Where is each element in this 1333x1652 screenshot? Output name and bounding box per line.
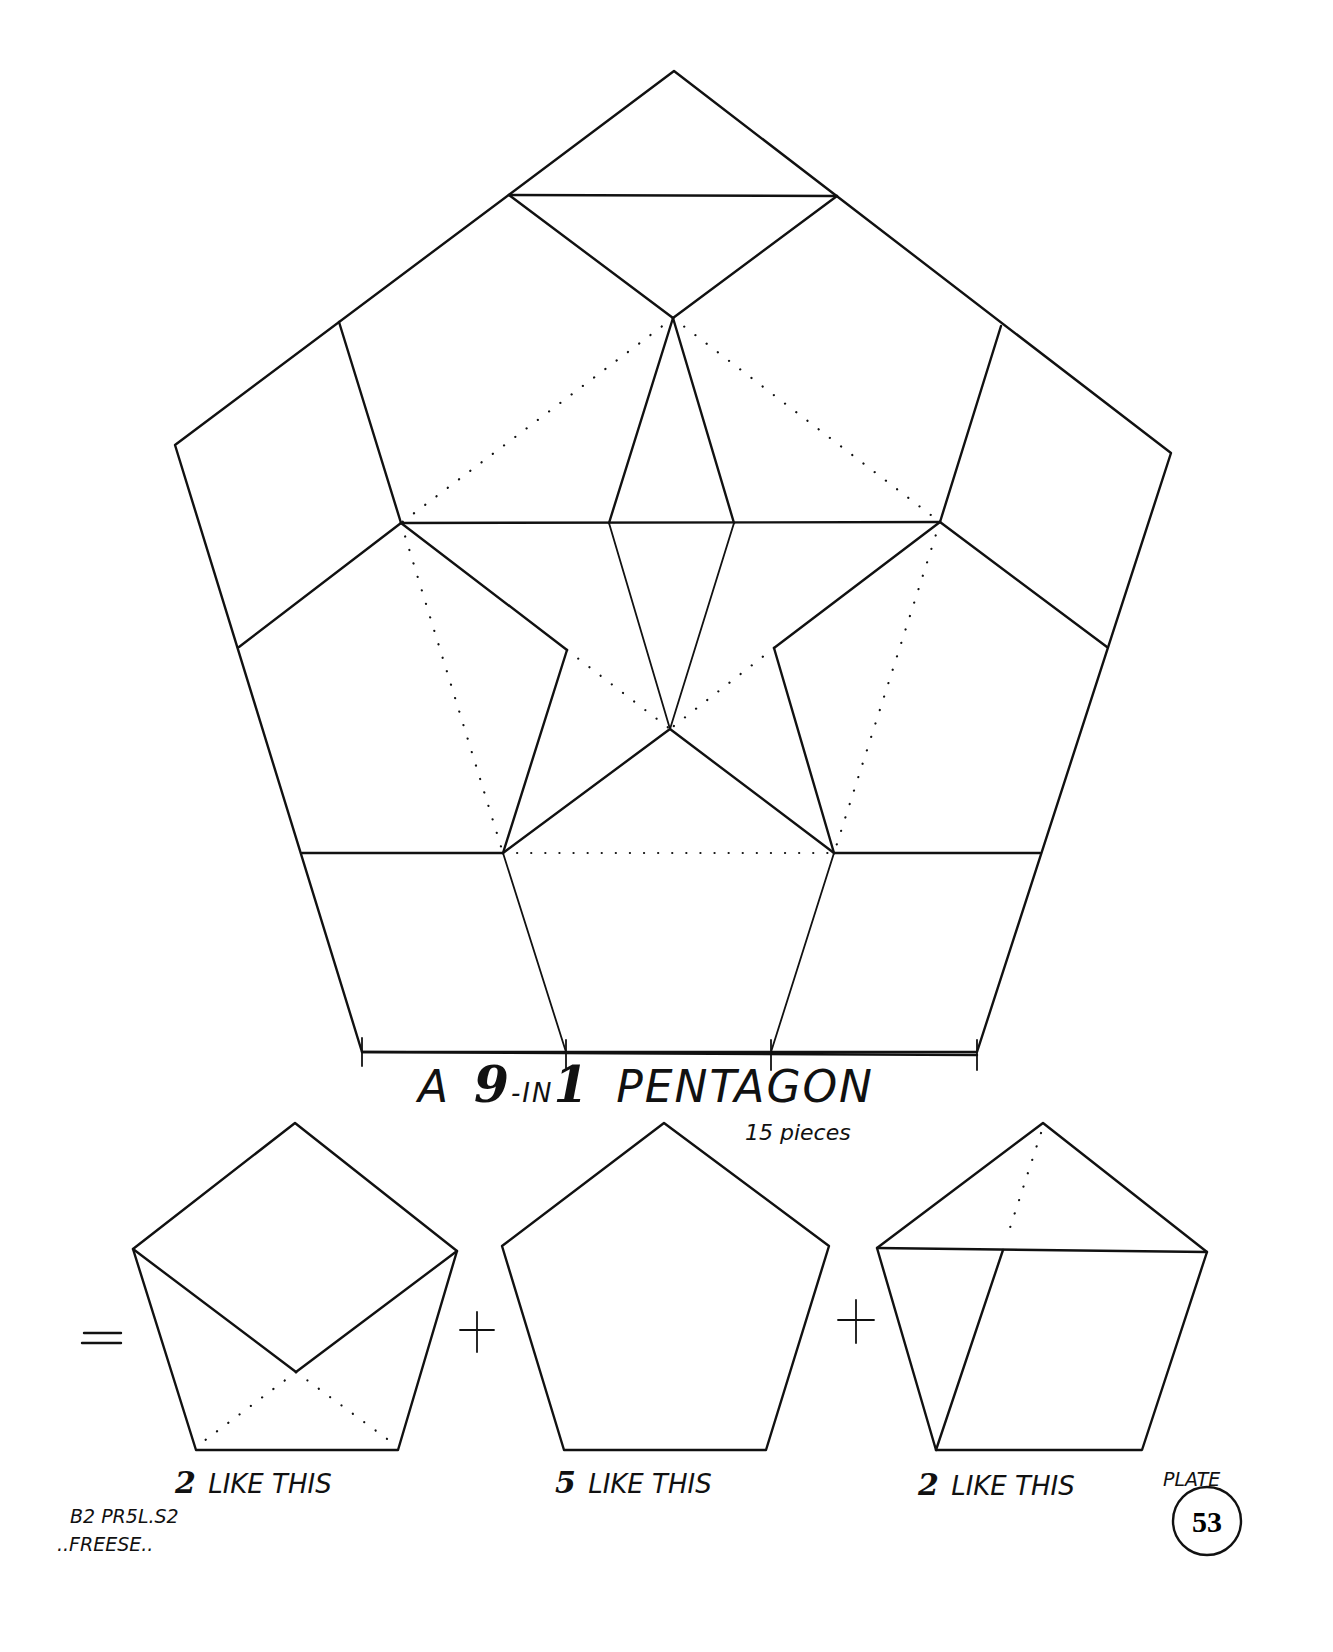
kite-upper-left: [609, 318, 673, 523]
plate-number: 53: [1192, 1505, 1222, 1538]
bottom-divider-right: [771, 853, 834, 1052]
dotted-line: [200, 1372, 296, 1444]
dotted-line: [834, 522, 940, 853]
upper-left-divider: [339, 322, 401, 523]
plate-badge: PLATE 53: [1163, 1468, 1241, 1555]
middle-horizontal: [401, 522, 940, 523]
bottom-divider-left: [503, 853, 566, 1052]
main-pentagon-diagram: [175, 71, 1171, 1070]
dotted-line: [401, 318, 673, 523]
piece-c-diagonal: [936, 1250, 1003, 1450]
piece-c-outline: [877, 1123, 1207, 1450]
dotted-line: [401, 523, 503, 853]
top-rhombus-right-edge: [673, 196, 837, 318]
title-text: A 9-IN1 PENTAGON: [415, 1055, 874, 1114]
equals-sign: [82, 1333, 121, 1343]
title-block: A 9-IN1 PENTAGON 15 pieces: [415, 1055, 874, 1145]
svg-text:2 LIKE THIS: 2 LIKE THIS: [917, 1467, 1075, 1502]
main-pentagon-outline: [175, 71, 1171, 1052]
credit-code: B2 PR5L.S2: [70, 1505, 179, 1527]
piece-b-label: 5 LIKE THIS: [555, 1465, 712, 1500]
left-notch-upper: [401, 523, 567, 650]
piece-a-label: 2 LIKE THIS: [174, 1465, 332, 1500]
left-notch-lower: [503, 650, 567, 853]
svg-text:5 LIKE THIS: 5 LIKE THIS: [555, 1465, 712, 1500]
top-triangle-base: [509, 195, 837, 196]
bottom-roof-right: [670, 729, 834, 853]
dotted-line: [670, 648, 774, 729]
dotted-line: [296, 1372, 394, 1444]
kite-upper-right: [673, 318, 734, 523]
dotted-line: [1006, 1133, 1041, 1240]
top-rhombus-left-edge: [509, 195, 673, 318]
piece-b-outline: [502, 1123, 829, 1450]
kite-lower-left: [609, 523, 670, 729]
right-notch-upper: [774, 522, 940, 648]
plus-sign-1: [460, 1312, 494, 1352]
piece-a-diagram: [133, 1123, 457, 1450]
plus-sign-2: [838, 1300, 874, 1343]
dotted-line: [673, 318, 940, 522]
piece-a-rhombus-right: [296, 1251, 457, 1372]
credit-author: ..FREESE..: [57, 1533, 153, 1555]
upper-right-divider: [940, 326, 1001, 522]
piece-c-diagram: [877, 1123, 1207, 1450]
dotted-line: [567, 650, 670, 729]
bottom-roof-left: [503, 729, 670, 853]
piece-c-label: 2 LIKE THIS: [917, 1467, 1075, 1502]
subtitle-pieces: 15 pieces: [745, 1120, 851, 1145]
svg-text:2 LIKE THIS: 2 LIKE THIS: [174, 1465, 332, 1500]
piece-c-horizontal: [877, 1248, 1207, 1252]
right-pent-top: [940, 522, 1107, 647]
dissection-plate: A 9-IN1 PENTAGON 15 pieces: [0, 0, 1333, 1652]
right-notch-lower: [774, 648, 834, 853]
piece-b-diagram: [502, 1123, 829, 1450]
kite-lower-right: [670, 523, 734, 729]
left-pent-top: [239, 523, 401, 647]
piece-a-rhombus-left: [133, 1249, 296, 1372]
